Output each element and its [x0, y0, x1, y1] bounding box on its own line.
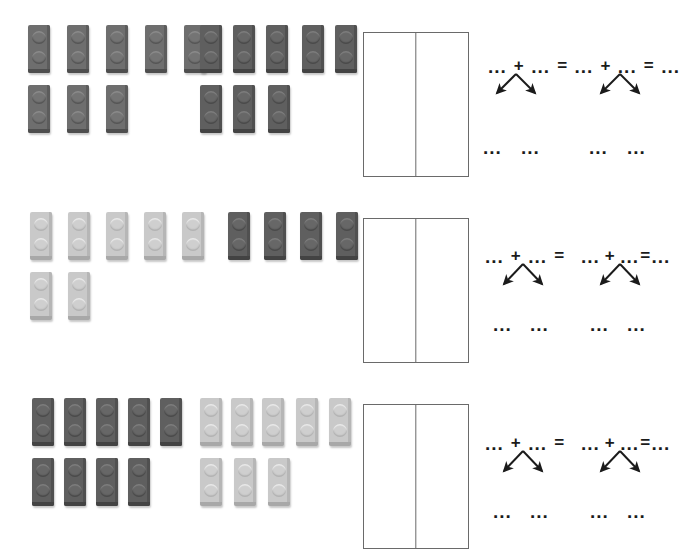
lego-brick [296, 398, 318, 446]
lego-brick [234, 458, 256, 506]
box-divider [415, 33, 416, 176]
lego-brick [160, 398, 182, 446]
branch-leaf-dots[interactable]: ... [627, 502, 646, 521]
branch-leaf-dots[interactable]: ... [627, 138, 646, 157]
problem-row-1: ...+...=...+...=... ... ... ... ... [0, 25, 689, 195]
answer-box-3[interactable] [363, 404, 469, 549]
lego-brick [233, 85, 255, 133]
answer-box-2[interactable] [363, 218, 469, 363]
lego-brick [268, 85, 290, 133]
worksheet-canvas: ...+...=...+...=... ... ... ... ... [0, 0, 689, 553]
lego-brick [231, 398, 253, 446]
box-divider [415, 405, 416, 548]
branch-leaf-dots[interactable]: ... [483, 138, 502, 157]
brick-area-2 [0, 212, 355, 372]
branch-leaf-dots[interactable]: ... [627, 315, 646, 334]
lego-brick [32, 458, 54, 506]
lego-brick [30, 212, 52, 260]
lego-brick [145, 25, 167, 73]
problem-row-3: ...+...= ...+...=... ... ... ... ... [0, 398, 689, 553]
lego-brick [96, 398, 118, 446]
lego-brick [64, 458, 86, 506]
lego-brick [266, 25, 288, 73]
branch-leaf-dots[interactable]: ... [589, 138, 608, 157]
lego-brick [64, 398, 86, 446]
lego-brick [268, 458, 290, 506]
branch-arrows-2 [479, 260, 689, 320]
branch-leaf-dots[interactable]: ... [493, 315, 512, 334]
lego-brick [335, 25, 357, 73]
equation-area-3: ...+...= ...+...=... ... ... ... ... [479, 398, 689, 518]
lego-brick [336, 212, 358, 260]
branch-leaf-dots[interactable]: ... [530, 502, 549, 521]
lego-brick [329, 398, 351, 446]
lego-brick [264, 212, 286, 260]
lego-brick [200, 25, 222, 73]
brick-area-1 [0, 25, 355, 185]
lego-brick [200, 85, 222, 133]
lego-brick [30, 272, 52, 320]
lego-brick [228, 212, 250, 260]
lego-brick [106, 25, 128, 73]
box-divider [415, 219, 416, 362]
equation-area-2: ...+...= ...+...=... ... ... ... ... [479, 212, 689, 332]
lego-brick [200, 458, 222, 506]
lego-brick [300, 212, 322, 260]
lego-brick [68, 272, 90, 320]
branch-arrows-3 [479, 447, 689, 507]
lego-brick [262, 398, 284, 446]
branch-leaf-dots[interactable]: ... [590, 502, 609, 521]
branch-leaf-dots[interactable]: ... [590, 315, 609, 334]
lego-brick [182, 212, 204, 260]
lego-brick [28, 25, 50, 73]
brick-area-3 [0, 398, 355, 553]
lego-brick [67, 85, 89, 133]
lego-brick [144, 212, 166, 260]
lego-brick [32, 398, 54, 446]
lego-brick [96, 458, 118, 506]
answer-box-1[interactable] [363, 32, 469, 177]
branch-leaf-dots[interactable]: ... [530, 315, 549, 334]
lego-brick [128, 458, 150, 506]
lego-brick [106, 212, 128, 260]
equation-area-1: ...+...=...+...=... ... ... ... ... [479, 25, 689, 145]
lego-brick [302, 25, 324, 73]
lego-brick [106, 85, 128, 133]
lego-brick [68, 212, 90, 260]
lego-brick [67, 25, 89, 73]
branch-arrows-1 [479, 70, 689, 130]
lego-brick [200, 398, 222, 446]
branch-leaf-dots[interactable]: ... [493, 502, 512, 521]
branch-leaf-dots[interactable]: ... [521, 138, 540, 157]
problem-row-2: ...+...= ...+...=... ... ... ... ... [0, 212, 689, 382]
lego-brick [233, 25, 255, 73]
lego-brick [128, 398, 150, 446]
lego-brick [28, 85, 50, 133]
